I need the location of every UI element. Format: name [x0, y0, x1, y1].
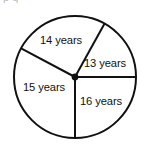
pie-slice-label-16-years: 16 years [80, 95, 123, 107]
pie-chart-figure: p q 13 years 14 years 15 years 16 years [0, 0, 145, 148]
pie-center-dot [72, 74, 79, 81]
pie-slice-label-14-years: 14 years [40, 34, 83, 46]
pie-slice-label-13-years: 13 years [84, 57, 127, 69]
pie-chart-svg: 13 years 14 years 15 years 16 years [0, 0, 145, 148]
pie-slice-label-15-years: 15 years [23, 81, 66, 93]
